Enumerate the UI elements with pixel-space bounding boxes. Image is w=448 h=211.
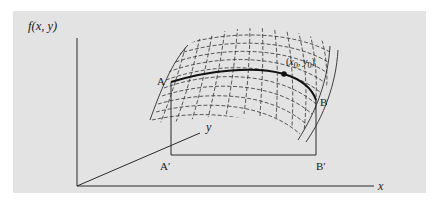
surface-grid	[152, 21, 332, 142]
y-axis	[77, 133, 200, 186]
point-A-label: A	[157, 76, 165, 87]
y-axis-label: y	[206, 121, 211, 133]
point-y-sub: 0	[307, 61, 311, 70]
point-A-prime-label: A′	[160, 161, 170, 172]
vertical-axis-label: f(x, y)	[28, 20, 57, 33]
figure-canvas: f(x, y) x y A B A′ B′ (x0, y0)	[0, 0, 448, 211]
point-B-prime-label: B′	[316, 161, 326, 172]
path-A-to-B	[171, 70, 316, 100]
axes	[77, 38, 374, 186]
x-axis-label: x	[378, 180, 383, 192]
point-x0-y0-marker	[281, 71, 287, 77]
point-B-label: B	[320, 97, 327, 108]
point-x0-y0-label: (x0, y0)	[286, 57, 315, 70]
